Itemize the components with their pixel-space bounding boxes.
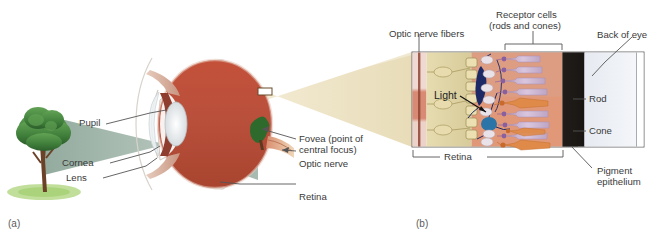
optic-nerve-fiber-strand	[418, 53, 420, 147]
retina-bracket	[413, 150, 563, 157]
label-retina-bracket: Retina	[444, 151, 472, 162]
photoreceptor-rows	[494, 56, 550, 150]
label-pigment-line2: epithelium	[597, 176, 641, 187]
label-light: Light	[434, 90, 457, 101]
label-optic-nerve: Optic nerve	[299, 158, 348, 169]
eye-retina-figure: Pupil Cornea Lens Fovea (point of centra…	[0, 0, 664, 249]
label-cone: Cone	[589, 125, 612, 136]
label-lens: Lens	[66, 172, 87, 183]
bipolar-cells	[466, 58, 477, 139]
label-rod: Rod	[589, 93, 607, 104]
panel-a-illustration	[7, 58, 296, 200]
label-back-of-eye: Back of eye	[597, 29, 647, 40]
label-fovea-line1: Fovea (point of	[299, 133, 363, 144]
label-receptor-cells-line2: (rods and cones)	[489, 20, 561, 31]
label-pigment-line1: Pigment	[597, 165, 632, 176]
receptor-cells-bracket	[505, 31, 562, 50]
label-receptor-cells-line1: Receptor cells	[496, 9, 557, 20]
label-fovea-line2: central focus)	[299, 144, 357, 155]
label-pupil: Pupil	[79, 117, 100, 128]
panel-label-a: (a)	[8, 218, 20, 229]
optic-nerve	[266, 136, 294, 158]
label-retina: Retina	[299, 191, 327, 202]
eyeball	[136, 58, 294, 190]
label-optic-nerve-fibers: Optic nerve fibers	[389, 28, 464, 39]
panel-label-b: (b)	[416, 218, 428, 229]
label-cornea: Cornea	[62, 157, 93, 168]
